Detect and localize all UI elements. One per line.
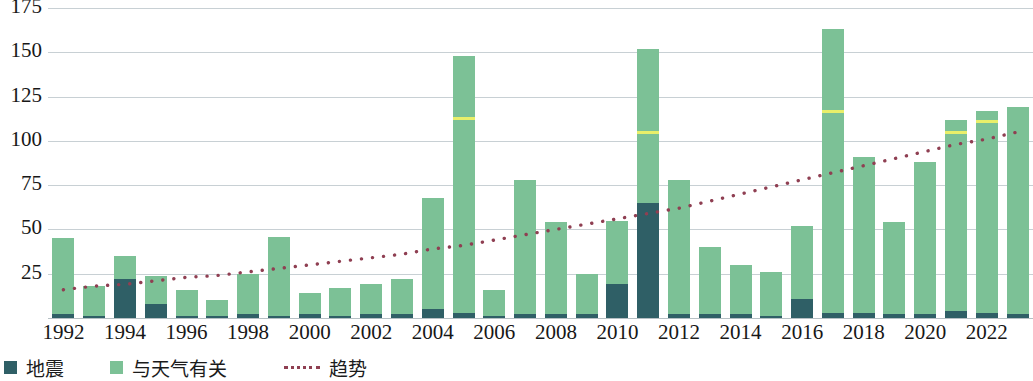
bar-segment-earthquake	[1007, 314, 1029, 318]
legend-label-trend: 趋势	[329, 354, 367, 381]
bar-segment-weather	[52, 238, 74, 314]
y-tick-label: 75	[0, 173, 42, 194]
bar-segment-weather	[483, 290, 505, 317]
bar-segment-earthquake	[52, 314, 74, 318]
bar-1997	[206, 300, 228, 318]
x-tick-label: 1994	[104, 320, 146, 344]
bar-marker-2021	[945, 131, 967, 134]
legend-item-earthquake: 地震	[4, 355, 64, 379]
x-tick-label: 2000	[289, 320, 331, 344]
bar-2001	[329, 288, 351, 318]
bar-segment-weather	[514, 180, 536, 315]
y-tick-label: 125	[0, 85, 42, 106]
bar-segment-weather	[822, 29, 844, 312]
bar-segment-earthquake	[299, 314, 321, 318]
x-axis-tick-labels: 1992199419961998200020022004200620082010…	[48, 320, 1033, 346]
bar-segment-earthquake	[976, 313, 998, 318]
bar-2023	[1007, 107, 1029, 318]
bar-2011	[637, 49, 659, 318]
bar-segment-weather	[576, 274, 598, 315]
bar-segment-earthquake	[637, 203, 659, 318]
bar-2012	[668, 180, 690, 318]
bar-segment-weather	[329, 288, 351, 316]
bar-segment-weather	[453, 56, 475, 313]
bar-segment-earthquake	[514, 314, 536, 318]
bar-2006	[483, 290, 505, 318]
x-tick-label: 2002	[350, 320, 392, 344]
bar-2004	[422, 198, 444, 318]
x-tick-label: 2018	[843, 320, 885, 344]
legend-label-weather: 与天气有关	[132, 354, 227, 381]
bar-segment-weather	[83, 286, 105, 316]
bar-segment-earthquake	[453, 313, 475, 318]
bar-segment-earthquake	[822, 313, 844, 318]
y-tick-label: 175	[0, 0, 42, 17]
bar-segment-earthquake	[945, 311, 967, 318]
chart-legend: 地震 与天气有关 趋势	[4, 355, 1033, 381]
bar-2022	[976, 111, 998, 318]
bar-2010	[606, 221, 628, 318]
bar-2016	[791, 226, 813, 318]
bar-segment-earthquake	[206, 316, 228, 318]
bar-1993	[83, 286, 105, 318]
x-tick-label: 2006	[473, 320, 515, 344]
bar-segment-earthquake	[237, 314, 259, 318]
x-tick-label: 2016	[781, 320, 823, 344]
y-tick-label: 50	[0, 217, 42, 238]
disaster-count-bar-chart: 255075100125150175 199219941996199820002…	[0, 0, 1033, 381]
x-tick-label: 1992	[42, 320, 84, 344]
bar-2015	[760, 272, 782, 318]
x-tick-label: 1998	[227, 320, 269, 344]
bar-segment-weather	[606, 221, 628, 285]
bar-1996	[176, 290, 198, 318]
bar-1999	[268, 237, 290, 318]
bar-segment-weather	[883, 222, 905, 314]
x-tick-label: 2008	[535, 320, 577, 344]
bar-segment-weather	[176, 290, 198, 317]
x-tick-label: 1996	[166, 320, 208, 344]
legend-swatch-earthquake-icon	[4, 361, 17, 374]
bar-2005	[453, 56, 475, 318]
bar-2014	[730, 265, 752, 318]
bar-segment-earthquake	[883, 314, 905, 318]
bar-segment-weather	[206, 300, 228, 316]
bar-segment-earthquake	[730, 314, 752, 318]
legend-swatch-weather-icon	[110, 361, 123, 374]
bar-segment-weather	[668, 180, 690, 315]
y-tick-label: 150	[0, 40, 42, 61]
bar-segment-weather	[791, 226, 813, 299]
bar-segment-weather	[853, 157, 875, 313]
bar-segment-weather	[360, 284, 382, 314]
bar-segment-earthquake	[83, 316, 105, 318]
bar-segment-earthquake	[176, 316, 198, 318]
x-tick-label: 2014	[720, 320, 762, 344]
bar-segment-weather	[1007, 107, 1029, 314]
bar-segment-weather	[391, 279, 413, 314]
bar-segment-weather	[114, 256, 136, 279]
legend-item-trend: 趋势	[284, 355, 367, 379]
bar-2018	[853, 157, 875, 318]
bar-segment-earthquake	[422, 309, 444, 318]
bar-2003	[391, 279, 413, 318]
bar-2000	[299, 293, 321, 318]
bar-segment-weather	[545, 222, 567, 314]
bar-marker-2022	[976, 120, 998, 123]
x-tick-label: 2022	[966, 320, 1008, 344]
bar-2007	[514, 180, 536, 318]
bar-2009	[576, 274, 598, 318]
bar-segment-weather	[268, 237, 290, 317]
bar-segment-earthquake	[699, 314, 721, 318]
bar-segment-weather	[945, 120, 967, 311]
legend-item-weather: 与天气有关	[110, 355, 227, 379]
bar-2013	[699, 247, 721, 318]
x-tick-label: 2020	[904, 320, 946, 344]
bar-segment-earthquake	[545, 314, 567, 318]
bar-segment-weather	[637, 49, 659, 203]
bar-segment-weather	[299, 293, 321, 314]
bar-segment-earthquake	[268, 316, 290, 318]
legend-label-earthquake: 地震	[26, 354, 64, 381]
bar-2019	[883, 222, 905, 318]
bar-segment-earthquake	[576, 314, 598, 318]
bar-segment-weather	[145, 276, 167, 304]
bar-segment-weather	[237, 274, 259, 315]
